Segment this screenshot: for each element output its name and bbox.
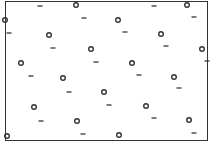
circle-particle xyxy=(3,18,8,23)
circle-particle xyxy=(75,119,80,124)
circle-particle xyxy=(185,3,190,8)
circle-particle xyxy=(61,76,66,81)
circle-particle xyxy=(102,90,107,95)
circle-particle xyxy=(89,47,94,52)
circle-particle xyxy=(200,47,205,52)
circle-particle xyxy=(47,33,52,38)
circle-particle xyxy=(32,105,37,110)
circle-particle xyxy=(19,61,24,66)
circle-particle xyxy=(5,134,10,139)
circle-particle xyxy=(130,61,135,66)
circle-particle xyxy=(116,18,121,23)
circle-particle xyxy=(144,104,149,109)
circle-particle xyxy=(74,3,79,8)
circle-particle xyxy=(159,32,164,37)
circle-particle xyxy=(187,118,192,123)
circle-particle xyxy=(172,75,177,80)
particle-diagram xyxy=(0,0,213,146)
circle-particle xyxy=(117,133,122,138)
